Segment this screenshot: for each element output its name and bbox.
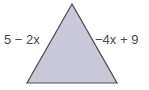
left-side-label: 5 − 2x [4,32,40,47]
right-side-label: −4x + 9 [95,32,138,47]
